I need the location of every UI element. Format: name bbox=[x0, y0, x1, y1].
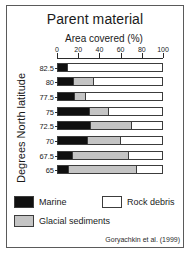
bar-segment-marine bbox=[58, 122, 91, 129]
bar-row: 65 bbox=[57, 165, 163, 174]
x-axis-tick-label: 20 bbox=[74, 46, 82, 53]
legend-swatch bbox=[102, 196, 122, 208]
legend-item: Rock debris bbox=[102, 194, 175, 209]
y-axis-tick-label: 70 bbox=[46, 137, 54, 146]
legend-item: Glacial sediments bbox=[14, 213, 110, 228]
bar-segment-rock bbox=[121, 137, 162, 144]
y-axis-tick-label: 77.5 bbox=[39, 93, 54, 102]
bar-row: 72.5 bbox=[57, 121, 163, 130]
y-axis-tick-label: 82.5 bbox=[39, 64, 54, 73]
bar-row: 80 bbox=[57, 77, 163, 86]
legend-item: Marine bbox=[14, 194, 67, 209]
bar-segment-rock bbox=[68, 64, 162, 71]
y-axis-tick-label: 80 bbox=[46, 78, 54, 87]
y-axis-tick-label: 67.5 bbox=[39, 152, 54, 161]
x-axis-tick-label: 40 bbox=[95, 46, 103, 53]
plot-area: 82.58077.57572.57067.565 bbox=[57, 60, 163, 180]
x-axis-tick-labels: 020406080100 bbox=[0, 46, 190, 56]
bar-segment-rock bbox=[86, 93, 162, 100]
bar-segment-glacial bbox=[73, 152, 129, 159]
bar-segment-glacial bbox=[88, 137, 121, 144]
bar-segment-marine bbox=[58, 64, 68, 71]
x-axis-tick-mark bbox=[121, 53, 122, 58]
bar-segment-rock bbox=[94, 78, 162, 85]
bar-segment-marine bbox=[58, 152, 73, 159]
legend-swatch bbox=[14, 196, 34, 208]
citation-label: Goryachkin et al. (1999) bbox=[105, 236, 180, 243]
x-axis-tick-mark bbox=[142, 53, 143, 58]
x-axis-line bbox=[57, 58, 163, 59]
x-axis-title: Area covered (%) bbox=[24, 33, 184, 44]
bar-segment-marine bbox=[58, 137, 88, 144]
chart-figure: Parent material Area covered (%) 0204060… bbox=[0, 0, 190, 261]
bar-segment-glacial bbox=[90, 108, 109, 115]
x-axis-tick-label: 100 bbox=[157, 46, 169, 53]
bar-segment-rock bbox=[109, 108, 162, 115]
y-axis-tick-label: 75 bbox=[46, 108, 54, 117]
legend: MarineRock debrisGlacial sediments bbox=[14, 194, 178, 232]
bar-segment-marine bbox=[58, 166, 69, 173]
bar-row: 82.5 bbox=[57, 63, 163, 72]
x-axis-tick-label: 60 bbox=[117, 46, 125, 53]
bar-segment-rock bbox=[137, 166, 162, 173]
y-axis-tick-mark bbox=[55, 156, 58, 157]
bar-segment-glacial bbox=[69, 166, 137, 173]
bar-segment-rock bbox=[129, 152, 162, 159]
legend-label: Marine bbox=[39, 197, 67, 207]
bar-segment-glacial bbox=[74, 78, 95, 85]
legend-row: MarineRock debris bbox=[14, 194, 178, 209]
y-axis-tick-label: 72.5 bbox=[39, 122, 54, 131]
bar-row: 77.5 bbox=[57, 92, 163, 101]
y-axis-tick-mark bbox=[55, 126, 58, 127]
legend-label: Glacial sediments bbox=[39, 216, 110, 226]
legend-label: Rock debris bbox=[127, 197, 175, 207]
legend-row: Glacial sediments bbox=[14, 213, 178, 228]
bar-row: 67.5 bbox=[57, 151, 163, 160]
bar-row: 75 bbox=[57, 107, 163, 116]
x-axis-tick-label: 80 bbox=[138, 46, 146, 53]
x-axis-tick-mark bbox=[57, 53, 58, 58]
y-axis-title: Degrees North latitude bbox=[15, 63, 27, 193]
bar-segment-rock bbox=[132, 122, 162, 129]
page-title: Parent material bbox=[0, 11, 190, 27]
bar-row: 70 bbox=[57, 136, 163, 145]
x-axis-tick-mark bbox=[99, 53, 100, 58]
y-axis-tick-mark bbox=[55, 112, 58, 113]
bar-segment-marine bbox=[58, 108, 90, 115]
bar-segment-glacial bbox=[75, 93, 86, 100]
y-axis-tick-label: 65 bbox=[46, 166, 54, 175]
y-axis-tick-mark bbox=[55, 82, 58, 83]
y-axis-tick-mark bbox=[55, 170, 58, 171]
y-axis-tick-mark bbox=[55, 141, 58, 142]
x-axis-tick-label: 0 bbox=[55, 46, 59, 53]
y-axis-tick-mark bbox=[55, 68, 58, 69]
bar-segment-marine bbox=[58, 93, 75, 100]
x-axis-tick-mark bbox=[78, 53, 79, 58]
legend-swatch bbox=[14, 215, 34, 227]
x-axis-tick-mark bbox=[163, 53, 164, 58]
bar-segment-marine bbox=[58, 78, 74, 85]
y-axis-tick-mark bbox=[55, 97, 58, 98]
bar-segment-glacial bbox=[91, 122, 132, 129]
